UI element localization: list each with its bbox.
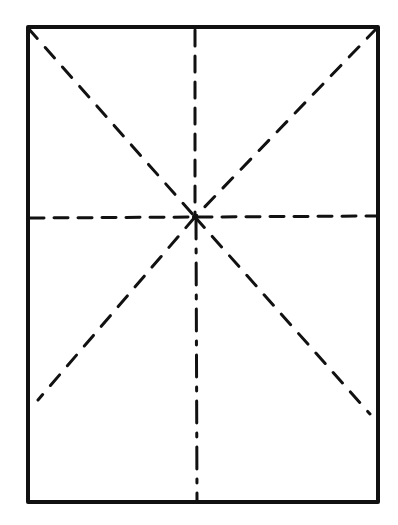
diagonal-top-right-line	[195, 28, 377, 217]
vertical-center-bottom-line	[196, 217, 197, 500]
construction-lines	[28, 28, 377, 500]
center-point	[192, 214, 198, 220]
diagonal-center-to-bottom-left-line	[38, 217, 195, 400]
diagonal-top-left-line	[28, 28, 195, 217]
diagram-canvas	[0, 0, 398, 525]
outer-rectangle-frame	[28, 27, 378, 502]
diagonal-center-to-bottom-right-line	[195, 217, 370, 414]
horizontal-center-line	[30, 216, 376, 218]
rectangle-diagram	[0, 0, 398, 525]
